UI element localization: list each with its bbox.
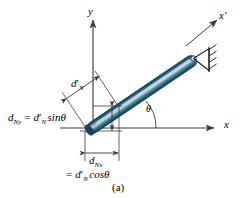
figure-container: y x x' θ d′N dNy=d′Nsinθ dNx =d′Ncosθ (a…: [0, 0, 242, 198]
figure-caption: (a): [112, 182, 124, 193]
d-Nx-equation-label: =d′Ncosθ: [66, 169, 109, 180]
rod: [83, 53, 199, 136]
d-prime-N-subscript: N: [79, 84, 84, 92]
d-Nx-rhs-subscript: N: [83, 175, 88, 183]
d-Nx-rhs-function: cosθ: [88, 168, 110, 180]
d-Ny-equation-label: dNy=d′Nsinθ: [8, 112, 66, 123]
d-Ny-symbol: d: [8, 111, 14, 123]
d-Ny-rhs-subscript: N: [41, 118, 46, 126]
xprime-axis-label: x': [219, 10, 226, 21]
theta-angle-label: θ: [146, 104, 151, 114]
pin-support: [191, 45, 217, 73]
d-Nx-label: dNx: [89, 155, 102, 166]
x-axis-label: x: [224, 119, 229, 130]
xprime-axis: [186, 20, 217, 46]
d-Ny-equals: =: [21, 111, 33, 123]
d-Ny-subscript: Ny: [14, 118, 22, 126]
d-Ny-rhs-function: sinθ: [46, 111, 66, 123]
y-axis-label: y: [88, 6, 93, 17]
figure-drawing: [0, 0, 242, 198]
d-Nx-equals: =: [66, 168, 75, 180]
d-Nx-symbol: d: [89, 154, 95, 166]
d-prime-N-label: d′N: [71, 78, 84, 89]
